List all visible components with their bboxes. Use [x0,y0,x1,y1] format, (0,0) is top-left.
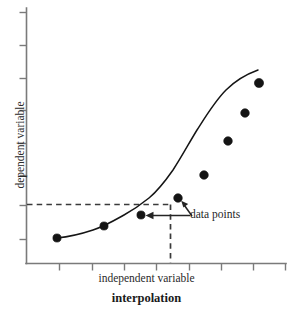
figure-title: interpolation [0,291,293,306]
data-point [53,234,61,242]
interpolation-figure: dependent variable independent variable … [0,0,293,313]
data-point [254,78,263,87]
data-point [137,211,145,219]
axes-group [26,8,286,264]
y-axis-label: dependent variable [14,90,26,200]
data-point [174,194,183,203]
data-point [241,109,250,118]
data-point [224,137,233,146]
interpolation-guides [27,205,171,264]
x-axis-ticks [60,264,286,271]
chart-canvas [0,0,293,313]
x-axis-label: independent variable [0,272,293,284]
annotation-arrowhead-horizontal [146,212,154,219]
data-point [200,171,209,180]
data-points-annotation-label: data points [190,208,240,220]
annotation-arrows [146,201,193,219]
annotation-arrowhead-diagonal [181,201,188,208]
data-point [100,222,108,230]
